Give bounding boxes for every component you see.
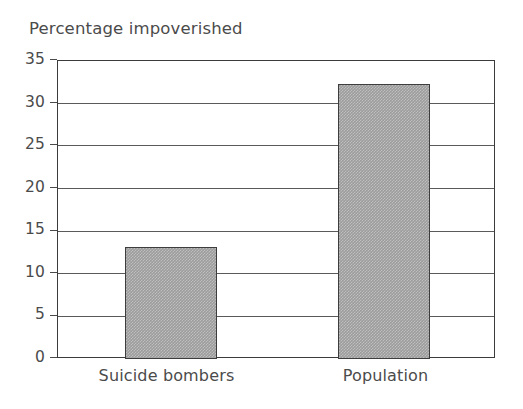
y-tick-mark-20: [50, 187, 57, 188]
y-tick-mark-25: [50, 144, 57, 145]
y-tick-label-0: 0: [10, 350, 45, 366]
bar-population[interactable]: [338, 84, 430, 359]
y-tick-label-20: 20: [10, 180, 45, 196]
plot-area: [57, 60, 495, 358]
y-tick-label-30: 30: [10, 95, 45, 111]
y-tick-mark-5: [50, 315, 57, 316]
y-tick-mark-10: [50, 272, 57, 273]
y-tick-mark-30: [50, 102, 57, 103]
chart-figure: Percentage impoverished 05101520253035 S…: [0, 0, 523, 409]
y-tick-label-5: 5: [10, 307, 45, 323]
y-tick-mark-35: [50, 59, 57, 60]
x-tick-label-population: Population: [276, 366, 495, 386]
y-tick-label-35: 35: [10, 52, 45, 68]
y-tick-label-25: 25: [10, 137, 45, 153]
y-tick-mark-15: [50, 230, 57, 231]
bar-suicide-bombers[interactable]: [125, 247, 217, 359]
chart-title: Percentage impoverished: [29, 19, 243, 39]
x-tick-label-suicide-bombers: Suicide bombers: [57, 366, 276, 386]
y-tick-mark-0: [50, 357, 57, 358]
y-tick-label-15: 15: [10, 222, 45, 238]
y-tick-label-10: 10: [10, 265, 45, 281]
